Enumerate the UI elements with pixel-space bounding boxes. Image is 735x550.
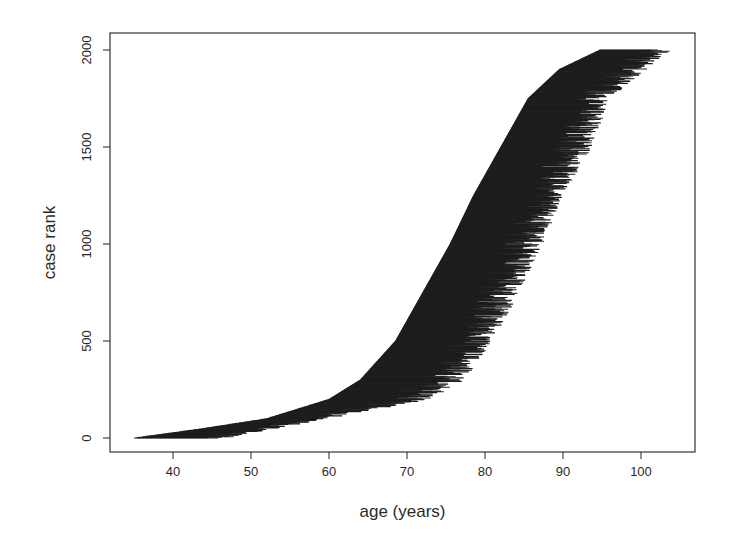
chart-svg: 405060708090100 0500100015002000 age (ye… xyxy=(0,0,735,550)
x-axis-title: age (years) xyxy=(360,502,446,521)
x-tick-label: 90 xyxy=(556,464,570,479)
case-segments xyxy=(134,50,670,438)
x-tick-label: 100 xyxy=(630,464,652,479)
y-tick-label: 1000 xyxy=(79,230,94,259)
x-tick-label: 80 xyxy=(478,464,492,479)
x-tick-label: 40 xyxy=(166,464,180,479)
y-tick-label: 1500 xyxy=(79,133,94,162)
y-axis-title: case rank xyxy=(40,205,59,279)
y-tick-label: 2000 xyxy=(79,36,94,65)
x-tick-label: 60 xyxy=(322,464,336,479)
y-axis: 0500100015002000 xyxy=(79,36,110,442)
x-tick-label: 70 xyxy=(400,464,414,479)
y-tick-label: 500 xyxy=(79,330,94,352)
x-axis: 405060708090100 xyxy=(166,452,652,479)
x-tick-label: 50 xyxy=(244,464,258,479)
y-tick-label: 0 xyxy=(79,434,94,441)
